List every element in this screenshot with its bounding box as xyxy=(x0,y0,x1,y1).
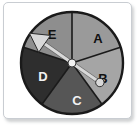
spinner-hub[interactable] xyxy=(68,59,76,67)
sector-label-a: A xyxy=(93,31,103,46)
spinner-widget[interactable]: ABCDE xyxy=(19,10,125,116)
pointer-knob xyxy=(96,78,104,86)
sector-label-c: C xyxy=(72,93,82,108)
spinner-card: ABCDE xyxy=(3,2,132,119)
spinner-svg[interactable]: ABCDE xyxy=(19,10,125,116)
sector-label-d: D xyxy=(38,69,47,84)
